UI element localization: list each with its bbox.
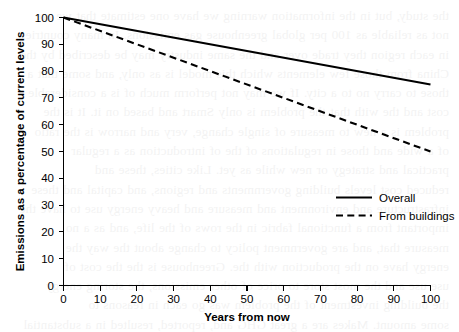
x-tick-label-70: 70 (314, 293, 327, 305)
legend-label-from-buildings: From buildings (379, 210, 455, 222)
y-tick-label-50: 50 (41, 146, 54, 158)
x-tick-label-80: 80 (351, 293, 364, 305)
series-line-overall (64, 18, 431, 85)
y-tick-label-30: 30 (41, 199, 54, 211)
y-axis-title: Emissions as a percentage of current lev… (14, 32, 26, 272)
y-tick-label-90: 90 (41, 38, 54, 50)
emissions-line-chart: 0 10 20 30 40 50 60 70 80 90 100 (0, 0, 459, 332)
y-tick-label-0: 0 (48, 280, 54, 292)
y-tick-label-20: 20 (41, 226, 54, 238)
y-axis-ticks: 0 10 20 30 40 50 60 70 80 90 100 (35, 12, 64, 292)
y-tick-label-40: 40 (41, 172, 54, 184)
x-axis-title: Years from now (204, 311, 290, 323)
x-tick-label-0: 0 (60, 293, 66, 305)
y-tick-label-60: 60 (41, 119, 54, 131)
y-tick-label-10: 10 (41, 253, 54, 265)
y-tick-label-100: 100 (35, 12, 54, 24)
series-line-from-buildings (64, 18, 431, 152)
chart-legend: Overall From buildings (336, 192, 455, 222)
y-tick-label-80: 80 (41, 65, 54, 77)
chart-svg: 0 10 20 30 40 50 60 70 80 90 100 (0, 0, 459, 332)
x-tick-label-100: 100 (421, 293, 440, 305)
x-tick-label-90: 90 (387, 293, 400, 305)
x-tick-label-30: 30 (167, 293, 180, 305)
x-tick-label-10: 10 (94, 293, 107, 305)
x-axis-ticks: 0 10 20 30 40 50 60 70 80 90 100 (60, 286, 440, 306)
y-tick-label-70: 70 (41, 92, 54, 104)
x-tick-label-40: 40 (204, 293, 217, 305)
x-tick-label-60: 60 (277, 293, 290, 305)
legend-label-overall: Overall (379, 192, 415, 204)
x-tick-label-50: 50 (241, 293, 254, 305)
x-tick-label-20: 20 (131, 293, 144, 305)
